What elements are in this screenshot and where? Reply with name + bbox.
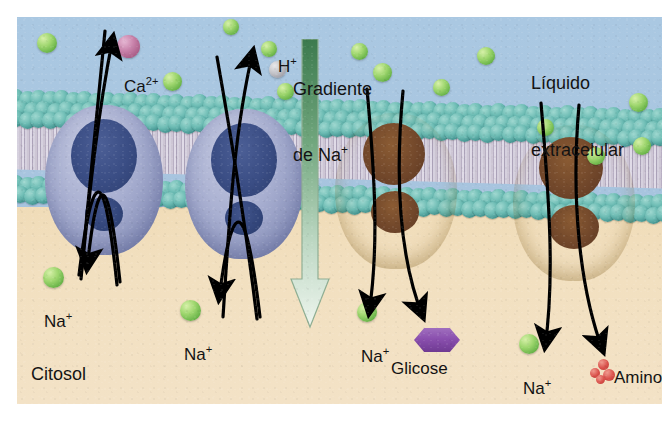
label-calcium-sup: 2+ bbox=[146, 75, 159, 87]
transporter-na-ca-exchanger[interactable] bbox=[45, 105, 163, 255]
label-calcium-text: Ca bbox=[124, 77, 146, 96]
gradient-line-2: de Na bbox=[293, 145, 341, 165]
gradient-sup: + bbox=[341, 143, 348, 157]
membrane-transport-figure: Ca2+ H+ Gradiente de Na+ Líquido extrace… bbox=[17, 17, 662, 404]
phospholipid-head bbox=[651, 129, 662, 146]
calcium-ion bbox=[117, 35, 140, 58]
label-sodium-sup: + bbox=[66, 310, 73, 322]
sodium-ion bbox=[633, 137, 651, 155]
label-sodium-text: Na bbox=[44, 312, 66, 331]
label-sodium-1: Na+ bbox=[25, 292, 72, 352]
gradient-line-1: Gradiente bbox=[293, 79, 372, 101]
label-hydrogen-text: H bbox=[278, 57, 290, 76]
sodium-ion bbox=[43, 267, 64, 288]
label-sodium-3: Na+ bbox=[342, 327, 389, 387]
label-sodium-text: Na bbox=[184, 345, 206, 364]
label-glucose: Glicose bbox=[391, 359, 448, 379]
sodium-ion bbox=[519, 334, 539, 354]
label-sodium-text: Na bbox=[523, 379, 545, 398]
sodium-ion bbox=[357, 302, 377, 322]
label-sodium-4: Na+ bbox=[504, 359, 551, 404]
label-sodium-sup: + bbox=[383, 345, 390, 357]
label-cytosol: Citosol bbox=[31, 364, 86, 385]
amino-acid-line-1: Amino- bbox=[614, 368, 662, 388]
sodium-ion bbox=[37, 33, 57, 53]
transporter-na-h-exchanger[interactable] bbox=[185, 109, 303, 259]
label-sodium-2: Na+ bbox=[165, 325, 212, 385]
label-extracellular-fluid: Líquido extracelular bbox=[531, 27, 624, 206]
label-amino-acid: Amino- ácido bbox=[614, 327, 662, 404]
sodium-ion bbox=[433, 79, 450, 96]
sodium-ion bbox=[163, 72, 182, 91]
label-hydrogen: H+ bbox=[259, 37, 297, 97]
label-sodium-sup: + bbox=[206, 343, 213, 355]
sodium-ion bbox=[629, 93, 648, 112]
label-sodium-sup: + bbox=[545, 377, 552, 389]
label-sodium-gradient: Gradiente de Na+ bbox=[293, 35, 372, 211]
sodium-ion bbox=[223, 19, 239, 35]
sodium-ion bbox=[477, 47, 495, 65]
extracellular-line-1: Líquido bbox=[531, 72, 624, 94]
label-sodium-text: Na bbox=[361, 347, 383, 366]
extracellular-line-2: extracelular bbox=[531, 139, 624, 161]
sodium-ion bbox=[373, 63, 392, 82]
sodium-ion bbox=[180, 300, 201, 321]
label-calcium: Ca2+ bbox=[105, 57, 158, 117]
